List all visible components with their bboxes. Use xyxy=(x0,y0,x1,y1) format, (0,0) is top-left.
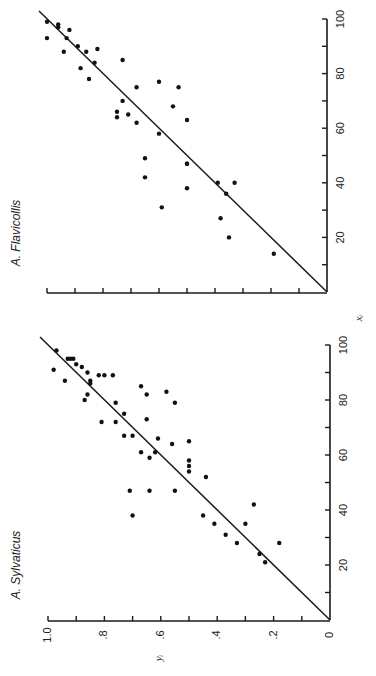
x-tick-label: 100 xyxy=(337,336,349,354)
chart-title: A. Flavicollis xyxy=(9,200,23,268)
data-point xyxy=(63,379,67,383)
data-point xyxy=(176,85,180,89)
data-point xyxy=(92,60,96,64)
data-point xyxy=(95,47,99,51)
data-point xyxy=(235,541,239,545)
data-point xyxy=(45,36,49,40)
data-point xyxy=(201,513,205,517)
data-point xyxy=(97,373,101,377)
data-point xyxy=(62,50,66,54)
data-point xyxy=(64,36,68,40)
x-tick-label: 100 xyxy=(334,10,346,28)
data-point xyxy=(139,450,143,454)
data-point xyxy=(85,370,89,374)
data-point xyxy=(56,25,60,29)
x-tick-label: 20 xyxy=(334,231,346,243)
data-point xyxy=(45,20,49,24)
data-point xyxy=(115,115,119,119)
data-point xyxy=(111,373,115,377)
data-point xyxy=(277,541,281,545)
scatter-figure: 20406080100A. Flavicollisxᵢ 204060801000… xyxy=(0,0,376,676)
chart-flavicollis: 20406080100A. Flavicollisxᵢ xyxy=(9,10,364,322)
data-point xyxy=(173,401,177,405)
x-tick-label: 60 xyxy=(334,122,346,134)
data-point xyxy=(143,156,147,160)
data-point xyxy=(122,434,126,438)
data-point xyxy=(113,401,117,405)
data-point xyxy=(51,368,55,372)
data-point xyxy=(102,373,106,377)
data-point xyxy=(156,436,160,440)
data-point xyxy=(115,110,119,114)
x-tick-label: 80 xyxy=(337,394,349,406)
x-tick-label: 40 xyxy=(334,177,346,189)
data-point xyxy=(187,439,191,443)
data-point xyxy=(143,175,147,179)
data-point xyxy=(134,121,138,125)
data-point xyxy=(130,513,134,517)
data-point xyxy=(232,181,236,185)
data-point xyxy=(82,398,86,402)
data-point xyxy=(139,384,143,388)
data-point xyxy=(185,186,189,190)
y-tick-label: .8 xyxy=(97,630,109,639)
data-point xyxy=(187,464,191,468)
data-point xyxy=(171,104,175,108)
fit-line xyxy=(40,337,330,620)
data-point xyxy=(99,420,103,424)
data-point xyxy=(126,112,130,116)
data-point xyxy=(252,502,256,506)
data-point xyxy=(71,357,75,361)
data-point xyxy=(153,450,157,454)
data-point xyxy=(263,560,267,564)
data-point xyxy=(76,44,80,48)
data-point xyxy=(187,458,191,462)
data-point xyxy=(78,66,82,70)
data-point xyxy=(243,522,247,526)
data-point xyxy=(223,533,227,537)
data-point xyxy=(224,192,228,196)
fit-line xyxy=(39,11,327,292)
x-tick-label: 60 xyxy=(337,449,349,461)
data-point xyxy=(67,28,71,32)
data-point xyxy=(272,252,276,256)
data-point xyxy=(88,381,92,385)
data-point xyxy=(147,456,151,460)
data-point xyxy=(218,216,222,220)
data-point xyxy=(87,77,91,81)
data-point xyxy=(187,469,191,473)
data-point xyxy=(54,348,58,352)
data-point xyxy=(145,417,149,421)
data-point xyxy=(212,522,216,526)
x-tick-label: 40 xyxy=(337,504,349,516)
data-point xyxy=(80,365,84,369)
data-point xyxy=(157,80,161,84)
y-tick-label: .6 xyxy=(154,630,166,639)
data-point xyxy=(120,99,124,103)
y-tick-label: 0 xyxy=(323,632,335,638)
data-point xyxy=(204,475,208,479)
y-tick-label: .4 xyxy=(210,630,222,639)
data-point xyxy=(134,85,138,89)
chart-title: A. Sylvaticus xyxy=(9,531,23,601)
data-point xyxy=(170,442,174,446)
y-tick-label: 1.0 xyxy=(41,627,53,642)
data-point xyxy=(85,392,89,396)
data-point xyxy=(128,489,132,493)
data-point xyxy=(164,390,168,394)
x-axis-label: xᵢ xyxy=(352,314,364,322)
data-point xyxy=(185,161,189,165)
data-point xyxy=(120,58,124,62)
data-point xyxy=(157,131,161,135)
data-point xyxy=(147,489,151,493)
data-point xyxy=(216,181,220,185)
chart-sylvaticus: 204060801000.2.4.6.81.0A. Sylvaticusyᵢ xyxy=(9,336,349,662)
data-point xyxy=(74,362,78,366)
data-point xyxy=(145,392,149,396)
x-tick-label: 20 xyxy=(337,559,349,571)
data-point xyxy=(185,118,189,122)
data-point xyxy=(227,235,231,239)
data-point xyxy=(130,434,134,438)
data-point xyxy=(122,412,126,416)
data-point xyxy=(113,420,117,424)
